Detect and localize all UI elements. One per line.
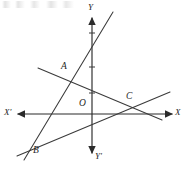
x-axis-left-arrow-icon [17,110,25,117]
geometry-figure: X' X Y Y' O A B C [0,0,185,169]
point-label-c: C [126,92,132,102]
line-through-a-and-c [38,68,162,120]
coordinate-plane-svg [0,0,185,169]
x-axis-right-arrow-icon [165,110,173,117]
y-axis-up-arrow-icon [88,17,95,25]
x-axis-negative-label: X' [4,108,11,117]
point-label-b: B [33,146,39,156]
line-through-a-and-b [24,12,113,160]
point-label-a: A [61,62,67,72]
origin-label: O [79,99,86,109]
y-axis-positive-label: Y [88,3,93,12]
y-axis-negative-label: Y' [95,152,102,161]
x-axis-positive-label: X [175,108,181,117]
